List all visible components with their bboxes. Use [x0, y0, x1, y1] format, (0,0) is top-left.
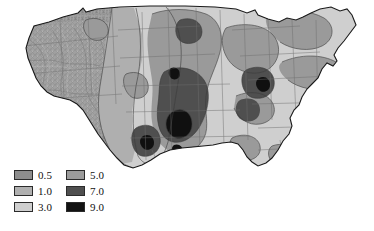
band-5-0-deep-south — [269, 144, 292, 164]
band-5-0-gulf — [185, 147, 213, 173]
legend-label-3-0: 3.0 — [38, 202, 52, 213]
band-9-0-florida-core — [319, 166, 332, 180]
legend-label-9-0: 9.0 — [90, 202, 104, 213]
band-5-0-florida-north — [307, 150, 332, 176]
legend-swatch-7-0 — [66, 186, 85, 196]
legend-swatch-3-0 — [14, 202, 33, 212]
legend-swatch-0-5 — [14, 170, 33, 180]
legend-label-7-0: 7.0 — [90, 186, 104, 197]
legend-column-left: 0.5 1.0 3.0 — [14, 168, 52, 216]
legend-label-1-0: 1.0 — [38, 186, 52, 197]
legend-label-0-5: 0.5 — [38, 170, 52, 181]
legend-column-right: 5.0 7.0 9.0 — [66, 168, 104, 216]
legend-entry: 7.0 — [66, 184, 104, 198]
contour-map-figure: 0.5 1.0 3.0 5.0 7.0 9.0 — [0, 0, 374, 231]
legend-entry: 0.5 — [14, 168, 52, 182]
contour-value-legend: 0.5 1.0 3.0 5.0 7.0 9.0 — [14, 168, 132, 216]
legend-entry: 3.0 — [14, 200, 52, 214]
band-5-0-southwest-lobe — [55, 116, 83, 142]
legend-entry: 1.0 — [14, 184, 52, 198]
legend-swatch-9-0 — [66, 202, 85, 212]
legend-label-5-0: 5.0 — [90, 170, 104, 181]
legend-entry: 9.0 — [66, 200, 104, 214]
legend-swatch-5-0 — [66, 170, 85, 180]
legend-swatch-1-0 — [14, 186, 33, 196]
legend-entry: 5.0 — [66, 168, 104, 182]
band-7-0-florida-core — [310, 157, 334, 184]
band-5-0-carolina — [314, 98, 343, 124]
